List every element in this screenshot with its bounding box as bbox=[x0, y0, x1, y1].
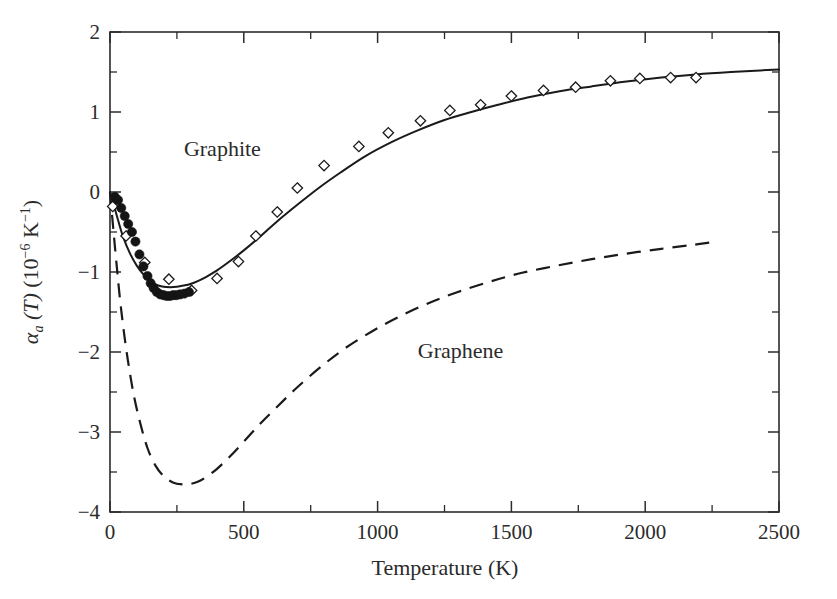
x-tick-label: 0 bbox=[105, 520, 116, 544]
y-axis-units-exponent-1: −6 bbox=[18, 243, 33, 258]
data-point-open-diamond bbox=[383, 128, 393, 138]
data-point-open-diamond bbox=[445, 105, 455, 115]
data-point-filled-circle bbox=[131, 237, 140, 246]
figure-container: 05001000150020002500 210−1−2−3−4 Graphit… bbox=[0, 0, 837, 599]
data-point-open-diamond bbox=[292, 183, 302, 193]
y-tick-label: 1 bbox=[90, 100, 101, 124]
x-tick-label: 2000 bbox=[624, 520, 666, 544]
x-tick-label: 2500 bbox=[758, 520, 800, 544]
data-point-open-diamond bbox=[164, 274, 174, 284]
chart-canvas: 05001000150020002500 210−1−2−3−4 Graphit… bbox=[0, 0, 837, 599]
y-tick-label: −1 bbox=[78, 260, 100, 284]
x-tick-label: 1500 bbox=[490, 520, 532, 544]
series-graphite-solid-curve bbox=[110, 70, 779, 288]
y-axis-units-prefix: (10 bbox=[18, 258, 43, 293]
data-point-open-diamond bbox=[415, 116, 425, 126]
y-tick-label: −2 bbox=[78, 340, 100, 364]
x-tick-label: 1000 bbox=[357, 520, 399, 544]
data-point-filled-circle bbox=[135, 250, 144, 259]
y-axis-units-mid: K bbox=[18, 222, 43, 244]
y-axis-units-exponent-2: −1 bbox=[18, 207, 33, 222]
graphene-label: Graphene bbox=[418, 338, 504, 363]
y-axis-units-suffix: ) bbox=[18, 200, 43, 207]
data-point-open-diamond bbox=[665, 72, 675, 82]
data-point-open-diamond bbox=[212, 273, 222, 283]
x-tick-label: 500 bbox=[228, 520, 260, 544]
data-point-filled-circle bbox=[139, 262, 148, 271]
graphite-solid-line bbox=[110, 70, 779, 288]
x-axis-title: Temperature (K) bbox=[372, 555, 519, 580]
y-tick-label: 2 bbox=[90, 20, 101, 44]
y-tick-label: −4 bbox=[78, 500, 101, 524]
series-graphene-dashed-curve bbox=[110, 192, 717, 485]
data-point-open-diamond bbox=[251, 231, 261, 241]
data-point-open-diamond bbox=[570, 82, 580, 92]
y-axis-major-ticks bbox=[110, 32, 779, 512]
y-axis-paren-t: (T) bbox=[18, 293, 43, 320]
data-point-open-diamond bbox=[272, 207, 282, 217]
y-axis-alpha-subscript: a bbox=[31, 326, 46, 333]
graphene-dashed-line bbox=[110, 192, 717, 485]
x-axis-minor-ticks bbox=[177, 32, 712, 512]
data-point-open-diamond bbox=[354, 141, 364, 151]
y-axis-alpha-symbol: α bbox=[18, 332, 43, 344]
x-axis-tick-labels: 05001000150020002500 bbox=[105, 520, 800, 544]
data-point-filled-circle bbox=[184, 287, 193, 296]
series-graphite-open-diamond-markers bbox=[107, 72, 701, 295]
y-axis-tick-labels: 210−1−2−3−4 bbox=[78, 20, 101, 524]
data-point-open-diamond bbox=[635, 73, 645, 83]
y-tick-label: −3 bbox=[78, 420, 100, 444]
y-tick-label: 0 bbox=[90, 180, 101, 204]
data-point-open-diamond bbox=[319, 160, 329, 170]
x-axis-major-ticks bbox=[110, 32, 779, 512]
svg-text:αa (T) (10−6 K−1): αa (T) (10−6 K−1) bbox=[18, 200, 46, 344]
y-axis-minor-ticks bbox=[110, 72, 779, 472]
y-axis-title: αa (T) (10−6 K−1) bbox=[18, 200, 46, 344]
series-graphite-filled-circle-markers bbox=[110, 192, 193, 300]
data-point-filled-circle bbox=[127, 227, 136, 236]
plot-frame bbox=[110, 32, 779, 512]
graphite-label: Graphite bbox=[184, 136, 261, 161]
